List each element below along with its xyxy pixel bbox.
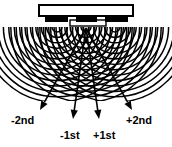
label-minus-1st: -1st	[60, 129, 80, 141]
label-plus-1st: +1st	[93, 129, 116, 141]
label-plus-2nd: +2nd	[126, 114, 152, 126]
label-minus-2nd: -2nd	[11, 114, 34, 126]
diagram-canvas: -2nd -1st +1st +2nd	[0, 0, 172, 147]
diffraction-diagram: -2nd -1st +1st +2nd	[0, 0, 172, 147]
grating-body	[39, 5, 133, 16]
